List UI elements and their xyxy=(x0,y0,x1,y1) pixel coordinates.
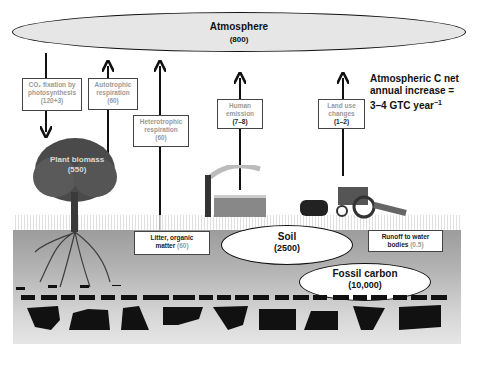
fossil-deposits xyxy=(13,285,461,345)
land-use-box: Land use changes (1–2) xyxy=(318,99,365,129)
autotrophic-respiration-box: Autotrophic respiration (60) xyxy=(88,78,138,110)
human-emission-box: Human emission (7–8) xyxy=(217,99,263,129)
tractor-icon xyxy=(298,175,408,220)
heterotrophic-respiration-box: Heterotrophic respiration (60) xyxy=(133,115,189,147)
factory-icon xyxy=(200,165,270,220)
plant-biomass-label: Plant biomass (550) xyxy=(45,155,109,175)
runoff-box: Runoff to water bodies (0.5) xyxy=(368,230,443,252)
co2-fixation-box: CO₂ fixation by photosynthesis (120+3) xyxy=(22,78,82,111)
litter-box: Litter, organic matter (60) xyxy=(134,231,210,255)
soil-pool: Soil (2500) xyxy=(221,225,353,265)
net-increase-note: Atmospheric C net annual increase = 3–4 … xyxy=(370,73,480,112)
